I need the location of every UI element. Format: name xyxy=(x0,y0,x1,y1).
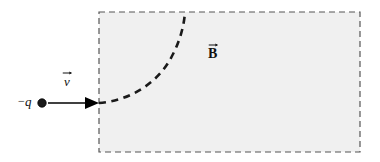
charge-sign: − xyxy=(18,94,25,108)
velocity-vector-label: v xyxy=(64,70,70,88)
charge-symbol: q xyxy=(25,94,32,109)
bfield-glyph-wrap: B xyxy=(208,42,217,61)
velocity-arrow-head xyxy=(85,97,99,109)
magnetic-field-label: B xyxy=(208,42,217,61)
charge-label: −q xyxy=(18,95,32,108)
diagram-svg xyxy=(0,0,380,162)
magnetic-field-symbol: B xyxy=(208,47,217,61)
magnetic-field-region-rect xyxy=(99,12,360,152)
physics-diagram-canvas: −q v B xyxy=(0,0,380,162)
velocity-symbol: v xyxy=(64,75,70,88)
velocity-vector-glyph-wrap: v xyxy=(64,70,70,88)
